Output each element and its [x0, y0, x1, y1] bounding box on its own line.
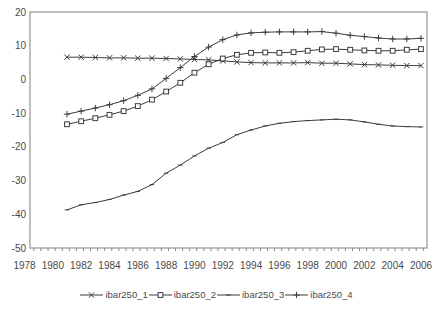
x-axis-tick-label: 1980	[42, 260, 65, 271]
legend-marker-plus-icon	[284, 290, 309, 300]
legend-item-ibar250_4: ibar250_4	[284, 289, 352, 300]
y-axis-tick-label: -30	[12, 175, 27, 186]
series-line-ibar250_3	[67, 119, 421, 210]
legend-label: ibar250_4	[310, 289, 352, 300]
x-axis-tick-label: 1998	[297, 260, 320, 271]
series-markers-ibar250_4	[64, 28, 424, 117]
legend-label: ibar250_2	[174, 289, 216, 300]
legend-item-ibar250_2: ibar250_2	[148, 289, 216, 300]
x-axis-tick-label: 1996	[268, 260, 291, 271]
x-axis-tick-label: 1978	[13, 260, 36, 271]
legend-marker-square-icon	[148, 290, 173, 300]
y-axis-tick-label: -10	[12, 108, 27, 119]
legend-item-ibar250_3: ibar250_3	[216, 289, 284, 300]
legend-marker-x-icon	[79, 290, 104, 300]
x-axis-tick-label: 2000	[325, 260, 348, 271]
x-axis-tick-label: 1994	[240, 260, 263, 271]
x-axis-tick-label: 1992	[212, 260, 235, 271]
plot-border	[30, 12, 427, 248]
x-axis-tick-label: 2006	[410, 260, 432, 271]
legend-label: ibar250_3	[242, 289, 284, 300]
legend-label: ibar250_1	[105, 289, 147, 300]
x-axis-tick-label: 1982	[70, 260, 93, 271]
y-axis-tick-label: 10	[15, 40, 27, 51]
y-axis-tick-label: -20	[12, 141, 27, 152]
chart-figure: 20100-10-20-30-40-5019781980198219841986…	[0, 0, 432, 320]
x-axis-tick-label: 2004	[382, 260, 405, 271]
x-axis-tick-label: 1986	[127, 260, 150, 271]
y-axis-tick-label: -50	[12, 243, 27, 254]
legend-item-ibar250_1: ibar250_1	[79, 289, 147, 300]
x-axis-tick-label: 1988	[155, 260, 178, 271]
series-markers-ibar250_1	[64, 54, 423, 68]
series-line-ibar250_4	[67, 32, 421, 115]
series-markers-ibar250_2	[65, 47, 424, 127]
series-line-ibar250_2	[67, 49, 421, 124]
y-axis-tick-label: -40	[12, 209, 27, 220]
legend-marker-line-icon	[216, 290, 241, 300]
x-axis-tick-label: 1990	[183, 260, 206, 271]
y-axis-tick-label: 0	[20, 74, 26, 85]
x-axis-tick-label: 2002	[353, 260, 376, 271]
x-axis-tick-label: 1984	[98, 260, 121, 271]
line-chart: 20100-10-20-30-40-5019781980198219841986…	[0, 0, 432, 286]
y-axis-tick-label: 20	[15, 7, 27, 18]
chart-legend: ibar250_1 ibar250_2 ibar250_3 ibar250_4	[0, 289, 432, 300]
series-line-ibar250_1	[67, 57, 421, 65]
